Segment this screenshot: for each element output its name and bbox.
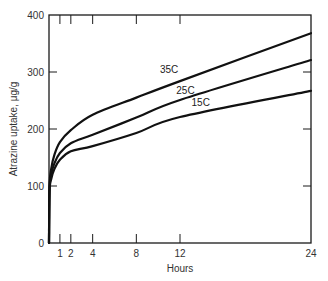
x-tick-label: 24 bbox=[305, 248, 317, 259]
curve-15c bbox=[49, 91, 311, 243]
x-tick-label: 2 bbox=[68, 248, 74, 259]
y-tick-label: 300 bbox=[27, 67, 44, 78]
y-tick-label: 100 bbox=[27, 181, 44, 192]
y-tick-label: 200 bbox=[27, 124, 44, 135]
series-label-25c: 25C bbox=[176, 85, 194, 96]
atrazine-uptake-chart: 124812240100200300400 35C25C15C Hours At… bbox=[0, 0, 328, 281]
axis-ticks bbox=[49, 15, 311, 243]
data-curves bbox=[49, 33, 311, 243]
y-tick-label: 0 bbox=[38, 238, 44, 249]
curve-35c bbox=[49, 33, 311, 243]
x-tick-label: 12 bbox=[174, 248, 186, 259]
series-label-15c: 15C bbox=[192, 97, 210, 108]
series-label-35c: 35C bbox=[160, 64, 178, 75]
x-axis-title: Hours bbox=[167, 263, 194, 274]
x-tick-label: 1 bbox=[57, 248, 63, 259]
x-tick-label: 8 bbox=[134, 248, 140, 259]
plot-frame bbox=[49, 15, 311, 243]
y-tick-label: 400 bbox=[27, 10, 44, 21]
y-axis-title: Atrazine uptake, μg/g bbox=[8, 82, 19, 177]
x-tick-label: 4 bbox=[90, 248, 96, 259]
